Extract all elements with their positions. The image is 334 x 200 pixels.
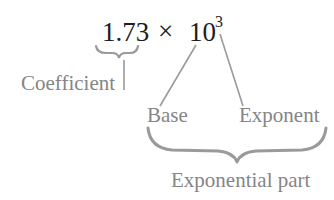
times-symbol: ×: [158, 18, 173, 45]
base-pointer-line: [160, 45, 196, 106]
base-label: Base: [147, 105, 188, 126]
exponent-label: Exponent: [239, 105, 319, 126]
exponent-pointer-line: [220, 34, 243, 106]
exponential-part-label: Exponential part: [171, 170, 310, 191]
exponent-value: 3: [215, 14, 223, 30]
coefficient-label: Coefficient: [21, 73, 115, 94]
coefficient-brace: [96, 46, 138, 58]
base-value: 10: [189, 19, 216, 46]
coefficient-value: 1.73: [102, 19, 149, 46]
exponential-part-brace: [148, 128, 326, 162]
